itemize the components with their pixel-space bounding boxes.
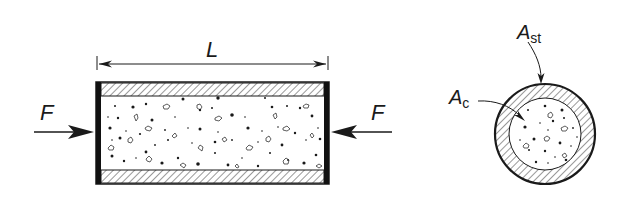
length-label: L (206, 37, 218, 62)
force-right-label: F (371, 100, 386, 125)
steel-area-subscript: st (530, 30, 541, 46)
composite-column-diagram: L (0, 0, 631, 197)
svg-text:Ast: Ast (516, 21, 541, 46)
length-dimension: L (97, 37, 328, 70)
concrete-area-subscript: c (462, 95, 469, 111)
force-left: F (34, 100, 94, 139)
side-view: L (34, 37, 392, 184)
concrete-core-section (509, 98, 581, 170)
end-plate-right (324, 82, 329, 184)
steel-area-callout: Ast (516, 21, 545, 84)
end-plate-left (96, 82, 101, 184)
cross-section-view: Ast Ac (448, 21, 595, 184)
svg-text:Ac: Ac (448, 86, 469, 111)
force-left-label: F (40, 100, 55, 125)
concrete-area-label: A (448, 86, 462, 108)
steel-wall-bottom (101, 170, 324, 183)
steel-area-label: A (516, 21, 530, 43)
tube-longitudinal-section (96, 82, 329, 184)
force-right: F (331, 100, 392, 139)
steel-wall-top (101, 83, 324, 96)
